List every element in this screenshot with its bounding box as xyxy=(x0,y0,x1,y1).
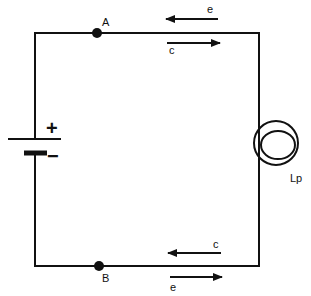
bottom-current-flow: c xyxy=(168,238,221,253)
lamp xyxy=(254,121,298,166)
lamp-label: Lp xyxy=(290,172,302,184)
node-a: A xyxy=(92,16,110,38)
bottom-electron-label: e xyxy=(170,281,176,293)
bottom-electron-flow: e xyxy=(170,277,222,293)
node-b-label: B xyxy=(102,272,109,284)
circuit-diagram: + − Lp A B e c c e xyxy=(0,0,311,296)
battery-negative-label: − xyxy=(47,145,59,167)
circuit-wires xyxy=(35,33,259,266)
node-a-dot xyxy=(92,28,102,38)
top-current-flow: c xyxy=(167,43,220,56)
wire-top-left xyxy=(35,33,259,138)
node-b: B xyxy=(94,261,109,284)
battery-positive-label: + xyxy=(46,117,58,139)
top-electron-flow: e xyxy=(166,3,218,19)
top-current-label: c xyxy=(169,44,175,56)
lamp-filament xyxy=(261,131,295,159)
top-electron-label: e xyxy=(207,3,213,15)
bottom-current-label: c xyxy=(213,238,219,250)
wire-bottom xyxy=(35,155,259,266)
node-a-label: A xyxy=(102,16,110,28)
node-b-dot xyxy=(94,261,104,271)
